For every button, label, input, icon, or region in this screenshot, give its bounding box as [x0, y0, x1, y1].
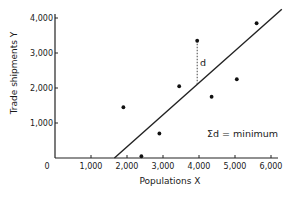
data-point	[140, 154, 144, 158]
x-tick-label: 1,000	[80, 162, 103, 171]
x-axis-title: Populations X	[139, 176, 200, 186]
x-tick-label: 6,000	[260, 162, 283, 171]
x-tick-label: 4,000	[188, 162, 211, 171]
scatter-chart: 1,0002,0003,0004,0005,0006,000 1,0002,00…	[0, 0, 290, 197]
origin-label: 0	[44, 162, 49, 171]
data-point	[158, 132, 162, 136]
data-point	[195, 39, 199, 43]
y-axis-title: Trade shipments Y	[9, 31, 19, 115]
data-point	[210, 95, 214, 99]
y-tick-label: 4,000	[30, 14, 53, 23]
data-point	[255, 21, 259, 25]
y-tick-label: 3,000	[30, 49, 53, 58]
y-ticks: 1,0002,0003,0004,000	[30, 14, 58, 128]
x-tick-label: 3,000	[152, 162, 175, 171]
data-point	[177, 84, 181, 88]
y-tick-label: 1,000	[30, 119, 53, 128]
y-tick-label: 2,000	[30, 84, 53, 93]
data-point	[122, 105, 126, 109]
x-tick-label: 5,000	[224, 162, 247, 171]
residual-label: d	[200, 57, 206, 68]
data-point	[235, 77, 239, 81]
x-tick-label: 2,000	[116, 162, 139, 171]
equation-annotation: Σd = minimum	[207, 128, 278, 139]
